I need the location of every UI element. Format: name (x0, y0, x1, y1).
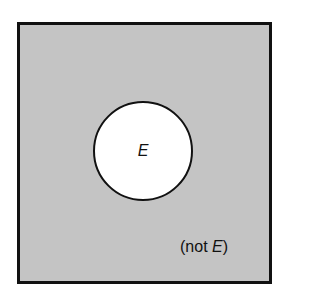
complement-suffix: ) (223, 238, 228, 255)
complement-event: E (212, 238, 223, 255)
event-e-label: E (138, 142, 149, 160)
event-e-circle: E (93, 101, 193, 201)
complement-prefix: (not (180, 238, 212, 255)
complement-label: (not E) (180, 238, 228, 256)
